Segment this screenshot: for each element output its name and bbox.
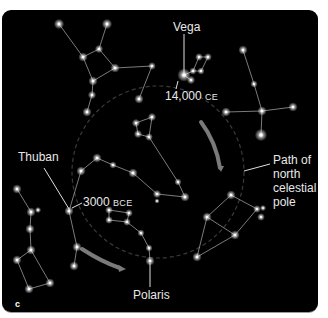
constellation-line bbox=[31, 250, 50, 283]
star-icon bbox=[149, 260, 152, 263]
star-icon bbox=[198, 56, 200, 58]
star-icon bbox=[177, 181, 179, 183]
arrow-icon bbox=[201, 122, 220, 168]
constellation-line bbox=[235, 209, 257, 235]
label-line: Path of bbox=[273, 153, 316, 167]
star-icon bbox=[242, 49, 245, 52]
star-icon bbox=[234, 234, 237, 237]
star-icon bbox=[192, 70, 194, 72]
star-icon bbox=[151, 65, 153, 67]
leader-line bbox=[44, 168, 69, 209]
precession-path-circle bbox=[72, 86, 244, 258]
label-line: north bbox=[273, 167, 316, 181]
star-icon bbox=[37, 209, 39, 211]
star-icon bbox=[206, 216, 209, 219]
star-icon bbox=[260, 216, 262, 218]
constellation-line bbox=[133, 173, 157, 194]
label-14000-ce: 14,000 CE bbox=[165, 90, 218, 104]
star-icon bbox=[114, 67, 117, 70]
constellation-line bbox=[59, 24, 83, 57]
constellation-line bbox=[17, 260, 29, 289]
star-icon bbox=[76, 246, 79, 249]
star-icon bbox=[184, 196, 187, 199]
star-icon bbox=[190, 79, 192, 81]
star-icon bbox=[262, 207, 264, 209]
constellation-line bbox=[197, 217, 207, 257]
arrowhead-icon bbox=[118, 265, 126, 272]
label-line: celestial bbox=[273, 181, 316, 195]
star-icon bbox=[135, 122, 137, 124]
star-icon bbox=[230, 194, 233, 197]
star-icon bbox=[96, 157, 99, 160]
label-path-of-north-celestial-pole: Path of north celestial pole bbox=[273, 153, 316, 209]
star-icon bbox=[261, 110, 264, 113]
star-icon bbox=[292, 106, 295, 109]
constellation-line bbox=[262, 107, 293, 111]
label-3000-bce: 3000 BCE bbox=[83, 196, 132, 210]
constellation-line bbox=[69, 171, 81, 211]
constellation-line bbox=[197, 235, 235, 257]
star-icon bbox=[82, 56, 85, 59]
star-icon bbox=[259, 133, 262, 136]
star-icon bbox=[182, 73, 186, 77]
precession-circle bbox=[72, 86, 244, 258]
star-icon bbox=[29, 228, 32, 231]
label-thuban: Thuban bbox=[18, 151, 59, 164]
arrow-icon bbox=[82, 249, 120, 268]
star-icon bbox=[58, 23, 61, 26]
star-icon bbox=[151, 116, 153, 118]
leader-line bbox=[244, 164, 270, 171]
star-icon bbox=[68, 210, 71, 213]
panel-letter: c bbox=[15, 299, 20, 309]
star-icon bbox=[92, 80, 95, 83]
label-polaris: Polaris bbox=[133, 289, 170, 302]
star-icon bbox=[28, 288, 31, 291]
constellation-line bbox=[149, 137, 178, 182]
star-icon bbox=[30, 211, 33, 214]
star-icon bbox=[108, 219, 110, 221]
star-icon bbox=[225, 111, 228, 114]
year-number: 14,000 bbox=[165, 89, 202, 103]
star-icon bbox=[148, 247, 150, 249]
star-icon bbox=[16, 188, 19, 191]
year-number: 3000 bbox=[83, 195, 110, 209]
star-icon bbox=[91, 94, 93, 96]
era-label: CE bbox=[205, 92, 218, 102]
constellation-line bbox=[207, 195, 231, 217]
star-icon bbox=[138, 98, 141, 101]
star-icon bbox=[128, 212, 130, 214]
constellation-line bbox=[115, 66, 152, 68]
constellation-line bbox=[69, 211, 77, 247]
star-icon bbox=[148, 136, 150, 138]
label-line: pole bbox=[273, 195, 316, 209]
star-icon bbox=[30, 249, 33, 252]
star-icon bbox=[156, 200, 157, 201]
star-icon bbox=[256, 208, 258, 210]
constellation-line bbox=[139, 66, 152, 99]
star-icon bbox=[200, 70, 202, 72]
leader-line bbox=[72, 203, 82, 208]
constellation-line bbox=[243, 50, 254, 84]
star-icon bbox=[86, 111, 89, 114]
star-icon bbox=[132, 172, 135, 175]
star-icon bbox=[137, 133, 139, 135]
star-icon bbox=[140, 232, 142, 234]
star-icon bbox=[112, 164, 114, 166]
constellation-line bbox=[226, 111, 262, 112]
star-icon bbox=[156, 193, 158, 195]
star-icon bbox=[73, 265, 76, 268]
star-icon bbox=[196, 256, 199, 259]
constellation-line bbox=[207, 217, 235, 235]
star-icon bbox=[80, 170, 83, 173]
star-icon bbox=[207, 56, 209, 58]
label-vega: Vega bbox=[173, 21, 200, 34]
star-icon bbox=[106, 23, 109, 26]
star-icon bbox=[49, 282, 52, 285]
star-icon bbox=[126, 221, 128, 223]
star-icon bbox=[253, 83, 255, 85]
era-label: BCE bbox=[113, 198, 132, 208]
star-icon bbox=[98, 48, 100, 50]
star-icon bbox=[16, 259, 19, 262]
